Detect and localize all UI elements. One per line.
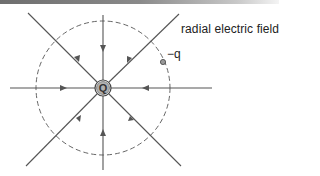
arrow-icon-top-left <box>74 55 80 62</box>
center-charge-label: Q <box>99 82 108 94</box>
field-line-bottom-left <box>26 94 97 166</box>
arrow-icon-right <box>142 85 149 91</box>
arrow-icon-top <box>100 45 106 52</box>
test-charge-label: −q <box>167 47 181 61</box>
arrow-icon-bottom <box>100 129 106 136</box>
test-charge <box>160 59 165 64</box>
diagram-title: radial electric field <box>181 22 279 36</box>
field-line-bottom-right <box>109 94 181 166</box>
arrow-icon-left <box>60 85 67 91</box>
arrow-icon-bottom-left <box>76 115 81 122</box>
